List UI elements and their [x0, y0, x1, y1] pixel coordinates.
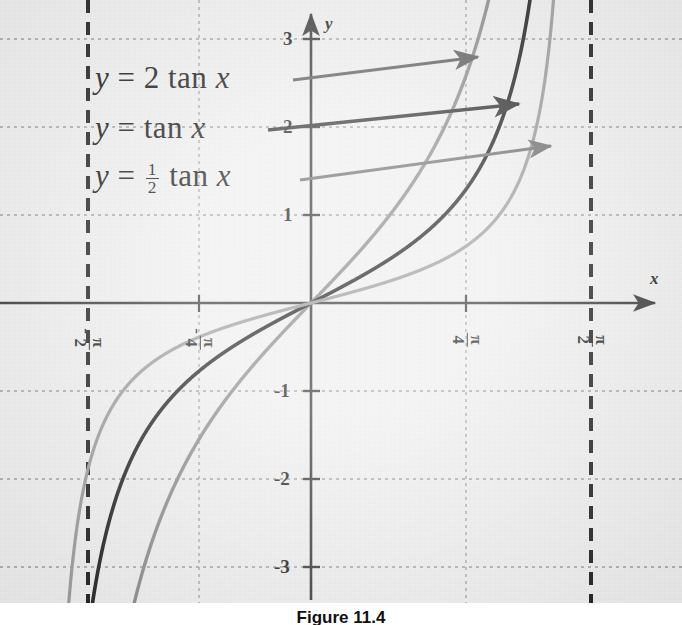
arrow-to-halftanx: [300, 146, 551, 180]
eq-function: tan: [168, 60, 207, 95]
eq-equals: =: [118, 60, 136, 95]
arrow-to-2tanx: [293, 57, 478, 80]
eq-equals: =: [118, 110, 136, 145]
y-tick-neg-1: -1: [274, 380, 290, 402]
eq-lhs: y: [95, 158, 109, 193]
label-tanx: y = tan x: [95, 110, 206, 146]
y-tick-2: 2: [283, 116, 293, 138]
fraction-denominator: 2: [146, 179, 159, 197]
eq-variable: x: [191, 110, 205, 145]
label-2tanx: y = 2 tan x: [95, 60, 230, 96]
eq-equals: =: [118, 158, 136, 193]
x-tick-numerator: π: [200, 336, 218, 349]
y-tick-neg-2: -2: [274, 468, 290, 490]
label-halftanx: y = 12 tan x: [95, 158, 231, 197]
figure-container: 3 2 1 -1 -2 -3 -π2 -π4 π4 π2 y x y = 2 t…: [0, 0, 682, 625]
y-tick-3: 3: [283, 28, 293, 50]
x-tick-pi-over-4: π4: [449, 325, 485, 355]
x-tick-numerator: π: [89, 336, 107, 349]
coordinate-axes: [0, 14, 655, 600]
x-axis-label: x: [650, 269, 659, 289]
y-tick-neg-3: -3: [274, 556, 290, 578]
plot-area: 3 2 1 -1 -2 -3 -π2 -π4 π4 π2 y x y = 2 t…: [0, 0, 682, 603]
arrow-to-tanx: [268, 104, 519, 130]
y-tick-1: 1: [283, 204, 293, 226]
eq-lhs: y: [95, 60, 109, 95]
x-tick-denominator: 2: [71, 336, 88, 349]
fraction-numerator: 1: [146, 161, 159, 180]
curve-y-2-tan-x: [311, 0, 496, 303]
x-tick-numerator: π: [467, 333, 485, 346]
eq-coefficient-fraction: 12: [146, 161, 159, 197]
eq-function: tan: [144, 110, 183, 145]
x-tick-neg-pi-over-2: -π2: [71, 323, 107, 357]
x-tick-sign: -: [77, 328, 96, 334]
eq-coefficient: 2: [144, 60, 160, 95]
x-tick-denominator: 4: [182, 336, 199, 349]
x-tick-numerator: π: [592, 333, 610, 346]
x-tick-sign: -: [188, 328, 207, 334]
eq-function: tan: [169, 158, 208, 193]
x-tick-denominator: 2: [574, 333, 591, 346]
eq-lhs: y: [95, 110, 109, 145]
eq-variable: x: [217, 158, 231, 193]
y-axis-label: y: [325, 14, 333, 34]
x-tick-neg-pi-over-4: -π4: [182, 323, 218, 357]
figure-caption: Figure 11.4: [0, 603, 682, 625]
x-tick-denominator: 4: [449, 333, 466, 346]
x-tick-pi-over-2: π2: [574, 325, 610, 355]
eq-variable: x: [216, 60, 230, 95]
